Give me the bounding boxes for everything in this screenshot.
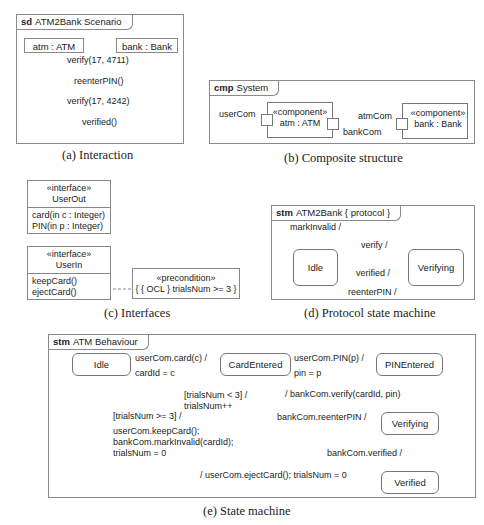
message-label: verify(17, 4242): [67, 96, 130, 107]
frame-tab: sdATM2Bank Scenario: [17, 15, 133, 30]
state-verifying: Verifying: [381, 412, 439, 435]
frame-tab: stmATM Behaviour: [49, 335, 149, 350]
transition-label: [trialsNum >= 3] /: [113, 411, 182, 422]
component-atm: «component» atm : ATM: [267, 102, 333, 138]
lifeline-atm: atm : ATM: [24, 38, 84, 53]
precondition-note: «precondition» { { OCL } trialsNum >= 3 …: [132, 268, 240, 299]
message-label: verified(): [82, 117, 117, 128]
transition-label: userCom.card(c) /: [135, 353, 207, 364]
state-verified: Verified: [381, 471, 439, 494]
transition-label: verify /: [361, 240, 388, 251]
caption: (a) Interaction: [62, 148, 133, 163]
transition-label: verified /: [356, 268, 390, 279]
transition-label: [trialsNum < 3] /: [184, 390, 247, 401]
transition-label: userCom.keepCard();: [113, 426, 200, 437]
interface-userout: «interface»UserOut card(in c : Integer)P…: [27, 180, 111, 234]
transition-label: bankCom.reenterPIN /: [277, 412, 367, 423]
port-user: [261, 114, 273, 126]
message-label: verify(17, 4711): [67, 55, 129, 66]
lifeline-bank: bank : Bank: [116, 38, 178, 53]
frame-tab: cmpSystem: [210, 81, 279, 96]
transition-label: reenterPIN /: [348, 287, 397, 298]
port-atm: [327, 118, 339, 130]
transition-label: markInvalid /: [290, 222, 341, 233]
caption: (c) Interfaces: [104, 306, 170, 321]
interface-userin: «interface»UserIn keepCard()ejectCard(): [27, 246, 111, 300]
message-label: reenterPIN(): [74, 76, 124, 87]
transition-label: bankCom.markInvalid(cardId);: [113, 437, 234, 448]
caption: (b) Composite structure: [284, 151, 403, 166]
state-verifying: Verifying: [408, 249, 464, 286]
transition-label: cardId = c: [135, 368, 175, 379]
state-idle: Idle: [72, 353, 131, 376]
transition-label: trialsNum++: [184, 401, 233, 412]
frame-tab: stmATM2Bank { protocol }: [272, 206, 401, 221]
port-label: userCom: [219, 109, 256, 120]
port-label: bankCom: [343, 127, 382, 138]
state-idle: Idle: [293, 249, 338, 286]
state-card-entered: CardEntered: [220, 353, 291, 376]
transition-label: userCom.PIN(p) /: [294, 353, 364, 364]
transition-label: pin = p: [294, 368, 321, 379]
transition-label: / userCom.ejectCard(); trialsNum = 0: [200, 470, 347, 481]
state-pin-entered: PINEntered: [376, 353, 443, 376]
transition-label: / bankCom.verify(cardId, pin): [285, 389, 401, 400]
transition-label: bankCom.verified /: [327, 448, 402, 459]
port-label: atmCom: [358, 111, 392, 122]
transition-label: trialsNum = 0: [113, 448, 166, 459]
caption: (e) State machine: [203, 504, 290, 519]
component-bank: «component» bank : Bank: [402, 103, 468, 139]
caption: (d) Protocol state machine: [304, 306, 436, 321]
port-bank: [396, 118, 408, 130]
